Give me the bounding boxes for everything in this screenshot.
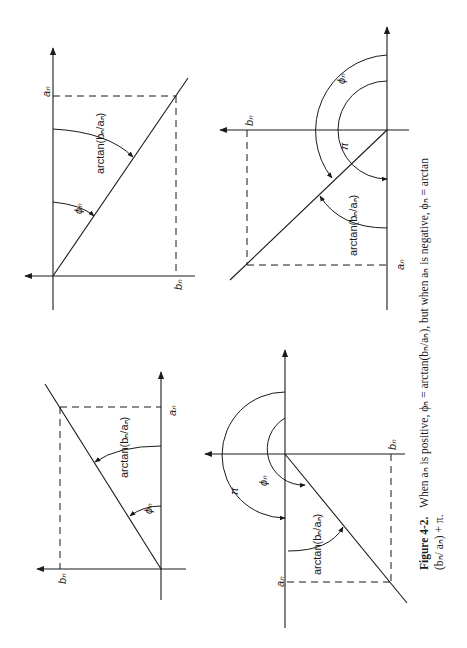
- phi-label: ϕₙ: [335, 73, 347, 84]
- phasor-line: [45, 384, 161, 569]
- a-axis-label: aₙ: [40, 86, 52, 97]
- panel-a-positive-b-negative: aₙ bₙ ϕₙ arctan(bₙ/aₙ): [37, 372, 186, 600]
- phasor-line: [53, 78, 188, 276]
- phi-label: ϕₙ: [72, 203, 84, 214]
- phi-arc: [267, 418, 305, 485]
- caption-label: Figure 4-2.: [418, 516, 431, 570]
- arctan-label: arctan(bₙ/aₙ): [118, 417, 130, 478]
- a-axis-label: aₙ: [394, 259, 406, 270]
- pi-label: π: [338, 142, 350, 150]
- pi-label: π: [228, 487, 240, 495]
- arctan-label: arctan(bₙ/aₙ): [94, 113, 106, 174]
- phasor-line: [230, 130, 387, 280]
- a-axis-label: aₙ: [166, 405, 178, 416]
- panel-a-negative-b-negative: aₙ bₙ ϕₙ π arctan(bₙ/aₙ): [205, 350, 407, 628]
- a-axis-label: aₙ: [274, 576, 286, 587]
- pi-arc: [222, 392, 285, 518]
- b-axis-label: bₙ: [56, 573, 68, 584]
- arctan-label: arctan(bₙ/aₙ): [347, 195, 359, 256]
- panel-a-positive-b-positive: aₙ bₙ ϕₙ arctan(bₙ/aₙ): [25, 48, 195, 310]
- b-axis-label: bₙ: [172, 279, 184, 290]
- arctan-arc: [53, 129, 133, 157]
- b-axis-label: bₙ: [386, 439, 398, 450]
- figure-caption: Figure 4-2. When aₙ is positive, ϕₙ = ar…: [418, 158, 446, 570]
- arctan-label: arctan(bₙ/aₙ): [311, 514, 323, 575]
- caption-text: When aₙ is positive, ϕₙ = arctan(bₙ/aₙ),…: [418, 158, 431, 508]
- b-axis-label: bₙ: [243, 115, 255, 126]
- panel-a-negative-b-positive: aₙ bₙ ϕₙ π arctan(bₙ/aₙ): [220, 27, 409, 310]
- phi-label: ϕₙ: [257, 475, 269, 486]
- phi-arc: [316, 55, 387, 178]
- figure-4-2: aₙ bₙ ϕₙ arctan(bₙ/aₙ) aₙ bₙ ϕₙ π arctan…: [0, 0, 467, 648]
- caption-line-2: (bₙ/ aₙ) + π.: [433, 514, 446, 570]
- caption-line-1: Figure 4-2. When aₙ is positive, ϕₙ = ar…: [418, 158, 431, 570]
- phi-label: ϕₙ: [142, 503, 154, 514]
- phasor-line: [285, 454, 407, 603]
